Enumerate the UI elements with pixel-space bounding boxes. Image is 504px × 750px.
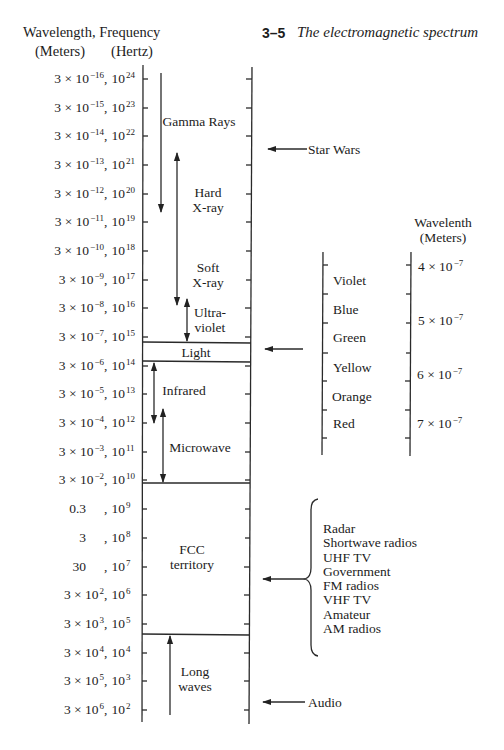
- wavelength-value: 3: [79, 530, 87, 547]
- scale-row: 3 × 105,103: [0, 673, 504, 689]
- scale-row: 3 × 10−16,1024: [0, 71, 504, 87]
- visible-wavelength-value: 6 × 10−7: [417, 367, 462, 384]
- scale-row: 3 × 10−5,1013: [0, 386, 504, 402]
- wavelength-value: 3 × 10−10: [54, 243, 104, 260]
- band-label-fcc-territory: FCC territory: [170, 542, 214, 572]
- color-ticks: [322, 265, 328, 438]
- scale-row: 30,107: [0, 559, 504, 575]
- band-label-line: territory: [170, 557, 214, 572]
- fcc-use-item: VHF TV: [323, 593, 417, 607]
- wavelength-value: 3 × 10−11: [55, 214, 104, 231]
- fcc-use-item: Radar: [323, 522, 417, 536]
- fcc-use-item: Shortwave radios: [323, 536, 417, 550]
- wavelength-value: 3 × 102: [64, 587, 104, 604]
- visible-wavelength-heading: Wavelenth: [414, 215, 471, 230]
- scale-row: 3 × 10−13,1021: [0, 157, 504, 173]
- scale-row: 3 × 10−15,1023: [0, 100, 504, 116]
- band-label-line: violet: [194, 320, 226, 335]
- electromagnetic-spectrum-figure: Wavelength, Frequency (Meters) (Hertz) 3…: [0, 0, 504, 750]
- fcc-use-item: Amateur: [323, 608, 417, 622]
- scale-row: 0.3,109: [0, 501, 504, 517]
- fcc-use-item: Government: [323, 565, 417, 579]
- figure-title: The electromagnetic spectrum: [297, 24, 478, 41]
- scale-row: 3 × 10−2,1010: [0, 472, 504, 488]
- scale-row: 3 × 10−14,1022: [0, 128, 504, 144]
- frequency-value: ,104: [104, 645, 130, 662]
- color-label-green: Green: [333, 330, 366, 345]
- wavelength-value: 3 × 10−14: [54, 128, 104, 145]
- fcc-use-item: AM radios: [323, 622, 417, 636]
- fcc-uses-list: Radar Shortwave radios UHF TV Government…: [323, 522, 417, 636]
- figure-number: 3–5: [262, 25, 285, 42]
- wavelength-value: 30: [73, 559, 88, 576]
- scale-row: 3 × 104,104: [0, 645, 504, 661]
- wavelength-value: 3 × 104: [64, 645, 104, 662]
- frequency-value: ,107: [104, 559, 130, 576]
- wavelength-value: 3 × 10−15: [54, 100, 104, 117]
- band-label-line: Ultra-: [194, 305, 226, 320]
- scale-row: 3 × 106,102: [0, 702, 504, 718]
- frequency-value: ,1017: [104, 272, 135, 289]
- wavelength-value: 3 × 10−16: [54, 71, 104, 88]
- color-label-violet: Violet: [333, 273, 366, 288]
- frequency-value: ,1022: [104, 128, 135, 145]
- wavelength-value: 3 × 10−8: [59, 300, 104, 317]
- frequency-value: ,103: [104, 673, 130, 690]
- band-label-line: FCC: [170, 542, 214, 557]
- band-label-line: waves: [178, 679, 212, 694]
- audio-annotation: Audio: [308, 695, 342, 710]
- frequency-value: ,1023: [104, 100, 135, 117]
- fcc-brace: [305, 499, 318, 656]
- frequency-value: ,106: [104, 587, 130, 604]
- wavelength-value: 3 × 10−7: [59, 329, 104, 346]
- color-label-orange: Orange: [332, 389, 372, 404]
- scale-row: 3 × 10−7,1015: [0, 329, 504, 345]
- frequency-value: ,1012: [104, 415, 135, 432]
- frequency-value: ,105: [104, 616, 130, 633]
- wavelength-value: 3 × 10−12: [54, 186, 104, 203]
- wavelength-value: 3 × 10−5: [59, 386, 104, 403]
- wavelength-value: 3 × 103: [64, 616, 104, 633]
- frequency-value: ,1014: [104, 358, 135, 375]
- frequency-value: ,102: [104, 702, 130, 719]
- color-label-yellow: Yellow: [333, 360, 371, 375]
- axis-title: Wavelength, Frequency: [23, 24, 160, 41]
- wavelength-value: 3 × 10−13: [54, 157, 104, 174]
- frequency-value: ,1019: [104, 214, 135, 231]
- fcc-use-item: FM radios: [323, 579, 417, 593]
- frequency-value: ,1020: [104, 186, 135, 203]
- band-label-line: X-ray: [192, 275, 223, 290]
- frequency-value: ,1016: [104, 300, 135, 317]
- scale-row: 3 × 102,106: [0, 587, 504, 603]
- frequency-value: ,109: [104, 501, 130, 518]
- visible-wavelength-ticks: [405, 265, 411, 438]
- frequency-value: ,1021: [104, 157, 135, 174]
- band-label-long-waves: Long waves: [178, 664, 212, 694]
- band-label-hard-xray: Hard X-ray: [192, 185, 223, 215]
- visible-wavelength-value: 4 × 10−7: [418, 259, 463, 276]
- wavelength-value: 3 × 10−6: [59, 358, 104, 375]
- wavelength-value: 3 × 10−9: [59, 272, 104, 289]
- band-label-infrared: Infrared: [162, 383, 205, 398]
- band-label-line: X-ray: [192, 200, 223, 215]
- band-label-line: Hard: [192, 185, 223, 200]
- frequency-value: ,1018: [104, 243, 135, 260]
- wavelength-unit-label: (Meters): [35, 43, 85, 60]
- scale-row: 3,108: [0, 530, 504, 546]
- wavelength-value: 0.3: [69, 501, 87, 518]
- visible-wavelength-value: 5 × 10−7: [418, 313, 463, 330]
- wavelength-value: 3 × 10−2: [59, 472, 104, 489]
- frequency-value: ,1013: [104, 386, 135, 403]
- wavelength-value: 3 × 105: [64, 673, 104, 690]
- visible-wavelength-unit: (Meters): [420, 230, 466, 245]
- color-label-blue: Blue: [333, 302, 359, 317]
- fcc-longwave-divider: [142, 634, 249, 635]
- visible-wavelength-value: 7 × 10−7: [417, 416, 462, 433]
- frequency-value: ,1024: [104, 71, 135, 88]
- frequency-value: ,1011: [104, 444, 135, 461]
- fcc-use-item: UHF TV: [323, 551, 417, 565]
- band-label-microwave: Microwave: [169, 440, 230, 455]
- band-label-soft-xray: Soft X-ray: [192, 260, 223, 290]
- scale-row: 3 × 10−3,1011: [0, 444, 504, 460]
- band-label-ultraviolet: Ultra- violet: [194, 305, 226, 335]
